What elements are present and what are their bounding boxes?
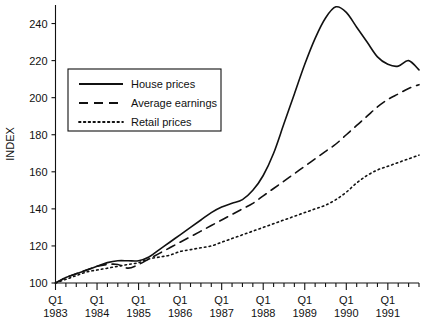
x-tick-label-year: 1990 [334, 307, 358, 319]
x-tick-label-quarter: Q1 [339, 294, 354, 306]
x-tick-label-quarter: Q1 [297, 294, 312, 306]
series-line-retail-prices [56, 155, 420, 283]
chart-legend: House pricesAverage earningsRetail price… [68, 69, 221, 131]
chart-canvas: 100120140160180200220240INDEXQ11983Q1198… [0, 0, 425, 330]
legend-label: Average earnings [131, 97, 218, 109]
x-tick-label-year: 1983 [43, 307, 67, 319]
y-tick-label: 120 [29, 240, 47, 252]
x-tick-label-year: 1987 [209, 307, 233, 319]
axis-lines [56, 5, 420, 283]
x-tick-label-quarter: Q1 [173, 294, 188, 306]
x-tick-label-year: 1991 [376, 307, 400, 319]
y-tick-label: 140 [29, 203, 47, 215]
x-tick-label-quarter: Q1 [214, 294, 229, 306]
series-line-house-prices [56, 7, 420, 283]
x-tick-label-quarter: Q1 [48, 294, 63, 306]
legend-label: House prices [131, 78, 196, 90]
y-tick-label: 180 [29, 129, 47, 141]
x-tick-label-year: 1988 [251, 307, 275, 319]
x-tick-label-year: 1986 [168, 307, 192, 319]
y-tick-label: 160 [29, 166, 47, 178]
legend-label: Retail prices [131, 116, 192, 128]
x-tick-label-year: 1984 [85, 307, 109, 319]
y-axis-title: INDEX [4, 127, 16, 161]
y-tick-label: 220 [29, 55, 47, 67]
y-tick-label: 200 [29, 92, 47, 104]
y-tick-label: 240 [29, 18, 47, 30]
x-tick-label-year: 1989 [293, 307, 317, 319]
x-tick-label-year: 1985 [126, 307, 150, 319]
x-tick-label-quarter: Q1 [90, 294, 105, 306]
line-chart-figure: 100120140160180200220240INDEXQ11983Q1198… [0, 0, 425, 330]
x-tick-label-quarter: Q1 [131, 294, 146, 306]
x-tick-label-quarter: Q1 [380, 294, 395, 306]
y-tick-label: 100 [29, 277, 47, 289]
x-tick-label-quarter: Q1 [256, 294, 271, 306]
